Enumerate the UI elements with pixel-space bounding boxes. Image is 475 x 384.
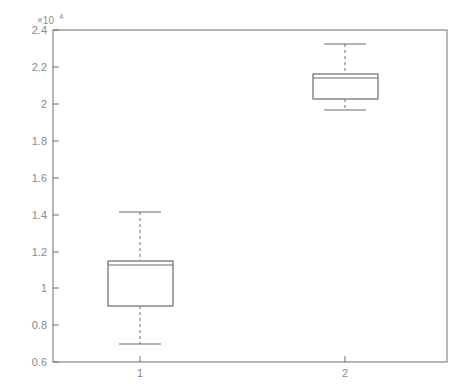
- x-tick-label: 2: [342, 367, 348, 379]
- y-tick-group: 1.4: [32, 209, 59, 221]
- x-tick-label: 1: [137, 367, 143, 379]
- y-axis-ticks: 0.6 0.8 1 1.2 1.4 1.6: [32, 24, 59, 368]
- y-tick-label: 2: [41, 98, 47, 110]
- box-plot-group-1: [108, 212, 173, 344]
- x-axis-ticks: 1 2: [137, 356, 348, 379]
- chart-figure: ×10 4 0.6 0.8 1 1.2 1.4: [0, 0, 475, 384]
- box-plot-group-2: [313, 44, 378, 110]
- y-tick-group: 0.6: [32, 356, 59, 368]
- y-tick-label: 2.4: [32, 24, 47, 36]
- plot-frame: [53, 30, 447, 362]
- y-tick-group: 0.8: [32, 319, 59, 331]
- x-tick-group: 2: [342, 356, 348, 379]
- y-tick-label: 1.8: [32, 135, 47, 147]
- x-tick-group: 1: [137, 356, 143, 379]
- y-tick-label: 1.6: [32, 172, 47, 184]
- y-tick-group: 2.2: [32, 61, 59, 73]
- y-tick-label: 2.2: [32, 61, 47, 73]
- exponent-power: 4: [59, 12, 64, 21]
- y-tick-label: 0.6: [32, 356, 47, 368]
- y-tick-label: 0.8: [32, 319, 47, 331]
- box-plot-chart: ×10 4 0.6 0.8 1 1.2 1.4: [0, 0, 475, 384]
- box-body: [108, 261, 173, 306]
- y-tick-group: 1.2: [32, 246, 59, 258]
- y-tick-group: 2: [41, 98, 59, 110]
- y-tick-group: 2.4: [32, 24, 59, 36]
- y-tick-label: 1: [41, 282, 47, 294]
- y-tick-label: 1.2: [32, 246, 47, 258]
- y-tick-group: 1.8: [32, 135, 59, 147]
- y-tick-label: 1.4: [32, 209, 47, 221]
- y-tick-group: 1: [41, 282, 59, 294]
- y-tick-group: 1.6: [32, 172, 59, 184]
